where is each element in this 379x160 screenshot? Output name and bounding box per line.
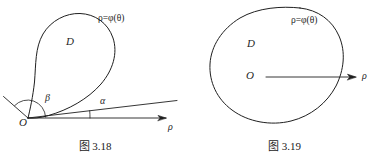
- polar-closed-curve: [210, 7, 343, 123]
- origin-label-O: O: [246, 70, 254, 81]
- figure-3-19-caption: 图 3.19: [190, 137, 379, 153]
- origin-label-O: O: [19, 117, 27, 128]
- alpha-angle-label: α: [100, 96, 105, 106]
- figure-sheet: ρ=φ(θ) D O ρ β α 图 3.18 ρ=φ(θ) D O ρ 图 3…: [0, 0, 379, 160]
- curve-equation-label: ρ=φ(θ): [291, 16, 317, 26]
- figure-3-18-drawing: [0, 0, 190, 160]
- figure-3-19-drawing: [190, 0, 379, 160]
- figure-3-18: ρ=φ(θ) D O ρ β α 图 3.18: [0, 0, 190, 160]
- region-label-D: D: [247, 38, 255, 49]
- figure-3-18-caption: 图 3.18: [0, 137, 190, 153]
- rho-axis-label: ρ: [362, 71, 367, 81]
- rho-axis-label: ρ: [168, 122, 173, 132]
- region-label-D: D: [66, 36, 74, 47]
- beta-ray: [4, 97, 29, 119]
- beta-angle-label: β: [45, 93, 50, 103]
- figure-3-19: ρ=φ(θ) D O ρ 图 3.19: [190, 0, 379, 160]
- curve-equation-label: ρ=φ(θ): [98, 14, 124, 24]
